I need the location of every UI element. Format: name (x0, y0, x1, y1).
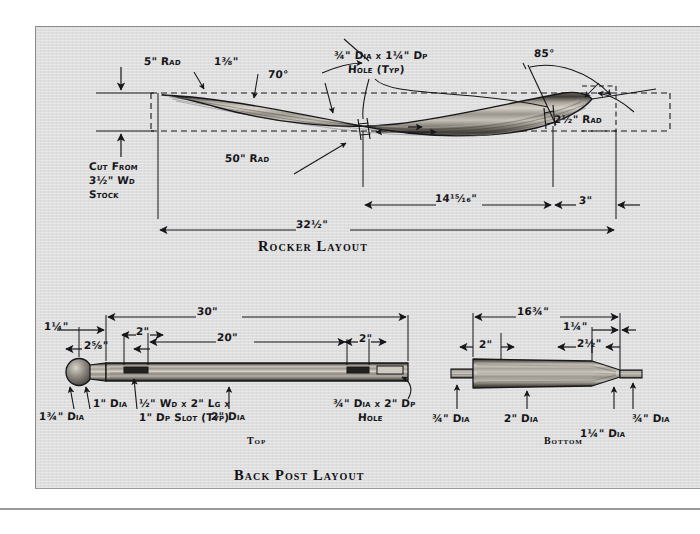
back-post-top-drawing (57, 315, 411, 409)
label-rocker-thickness: 1⅜" (214, 55, 239, 67)
label-bottom-dim-2-5: 2½" (577, 337, 602, 349)
page-footer-divider (0, 508, 700, 510)
label-rocker-stock-line1: Cut From (89, 160, 139, 172)
label-bottom-dim-2: 2" (479, 338, 493, 350)
label-top-dim-2-625: 2⅝" (84, 339, 109, 351)
label-rocker-stock-line3: Stock (89, 188, 120, 200)
label-bottom-dia-1-25: 1¼" Dia (580, 427, 626, 439)
label-top-dim-30: 30" (197, 305, 218, 317)
label-rocker-angle-70: 70° (268, 68, 289, 80)
back-post-bottom-drawing (451, 313, 642, 409)
label-top-dim-2-left: 2" (136, 325, 150, 337)
label-rocker-rad-2-5: 2½" Rad (554, 113, 603, 125)
label-top-dim-1-25: 1¼" (44, 320, 69, 332)
diagram-page: 5" Rad 1⅜" 70° ¾" Dia x 1¼" Dp Hole (Typ… (0, 0, 700, 534)
back-post-top-body (66, 359, 408, 386)
label-top-dia-1: 1" Dia (93, 397, 128, 409)
label-rocker-hole-typ-line2: Hole (Typ) (348, 63, 405, 75)
caption-bottom-view: Bottom (544, 435, 583, 446)
label-rocker-rad-50: 50" Rad (225, 152, 270, 164)
label-rocker-hole-typ-line1: ¾" Dia x 1¼" Dp (334, 49, 428, 61)
caption-back-post-layout: Back Post Layout (234, 467, 364, 484)
panel-bottom-divider (35, 488, 700, 489)
label-top-dim-20: 20" (217, 331, 238, 343)
label-rocker-dim-14-15-16: 14¹⁵⁄₁₆" (435, 192, 477, 204)
label-rocker-angle-85: 85° (534, 47, 555, 59)
label-bottom-dim-1-25: 1¼" (563, 320, 588, 332)
label-top-dim-2-right: 2" (359, 332, 373, 344)
label-bottom-dia-075-left: ¾" Dia (432, 412, 471, 424)
label-rocker-dim-3: 3" (579, 194, 593, 206)
label-top-slot-line1: ½" Wd x 2" Lg x (139, 397, 231, 409)
label-bottom-dia-2: 2" Dia (504, 412, 539, 424)
label-rocker-dim-32-5: 32½" (296, 218, 328, 230)
caption-rocker-layout: Rocker Layout (258, 238, 368, 255)
label-bottom-dia-075-right: ¾" Dia (632, 412, 671, 424)
label-top-dia-2: 2" Dia (211, 410, 246, 422)
label-bottom-dim-16-75: 16¾" (517, 305, 549, 317)
label-rocker-stock-line2: 3½" Wd (89, 174, 136, 186)
back-post-bottom-body (451, 359, 642, 388)
label-rocker-rad-5: 5" Rad (144, 55, 182, 67)
caption-top-view: Top (247, 435, 266, 446)
label-top-hole-line1: ¾" Dia x 2" Dp (333, 397, 416, 409)
label-top-hole-line2: Hole (358, 411, 383, 423)
rocker-stock-extension-lines (96, 93, 154, 131)
drawing-panel: 5" Rad 1⅜" 70° ¾" Dia x 1¼" Dp Hole (Typ… (35, 26, 700, 488)
rocker-tip-radius-pointer (585, 83, 599, 97)
label-top-dia-1-75: 1¾" Dia (39, 410, 85, 422)
